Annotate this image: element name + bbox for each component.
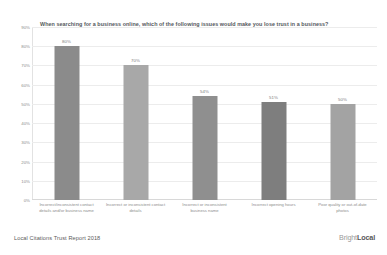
y-axis-tick-label: 0% bbox=[8, 198, 30, 203]
bar-value-label: 50% bbox=[338, 97, 347, 102]
bar[interactable] bbox=[123, 65, 148, 200]
bar-group[interactable]: 51% bbox=[239, 27, 308, 200]
y-axis-tick-label: 60% bbox=[8, 82, 30, 87]
logo-local-text: Local bbox=[357, 233, 375, 242]
bar[interactable] bbox=[261, 102, 286, 200]
bar[interactable] bbox=[330, 104, 355, 200]
bar[interactable] bbox=[192, 96, 217, 200]
brightlocal-logo: BrightLocal bbox=[339, 233, 375, 242]
y-axis-tick-label: 10% bbox=[8, 178, 30, 183]
y-axis-tick-label: 70% bbox=[8, 63, 30, 68]
x-axis-category-label: Incorrect/inconsistent contact details a… bbox=[36, 202, 98, 213]
bar-group[interactable]: 70% bbox=[101, 27, 170, 200]
logo-bright-text: Bright bbox=[339, 233, 357, 242]
y-axis-tick-label: 50% bbox=[8, 101, 30, 106]
x-axis-category-labels: Incorrect/inconsistent contact details a… bbox=[32, 202, 377, 226]
x-axis-category-label: Incorrect opening hours bbox=[243, 202, 305, 208]
bar-value-label: 51% bbox=[269, 95, 278, 100]
y-axis-tick-label: 90% bbox=[8, 25, 30, 30]
x-axis-category-label: Poor quality or out-of-date photos bbox=[312, 202, 374, 213]
bars-layer: 80%70%54%51%50% bbox=[32, 27, 377, 200]
bar-value-label: 80% bbox=[62, 39, 71, 44]
y-axis-tick-label: 40% bbox=[8, 121, 30, 126]
bar[interactable] bbox=[54, 46, 79, 200]
bar-group[interactable]: 80% bbox=[32, 27, 101, 200]
x-axis-category-label: Incorrect or inconsistent contact detail… bbox=[105, 202, 167, 213]
y-axis-tick-label: 30% bbox=[8, 140, 30, 145]
bar-group[interactable]: 54% bbox=[170, 27, 239, 200]
bar-value-label: 70% bbox=[131, 58, 140, 63]
footer-caption: Local Citations Trust Report 2018 bbox=[14, 234, 100, 242]
y-axis-tick-label: 20% bbox=[8, 159, 30, 164]
bar-group[interactable]: 50% bbox=[308, 27, 377, 200]
chart-card: When searching for a business online, wh… bbox=[0, 0, 387, 255]
bar-value-label: 54% bbox=[200, 89, 209, 94]
x-axis-category-label: Incorrect or inconsistent business name bbox=[174, 202, 236, 213]
y-axis-tick-labels: 90%80%70%60%50%40%30%20%10%0% bbox=[6, 27, 30, 200]
y-axis-tick-label: 80% bbox=[8, 44, 30, 49]
